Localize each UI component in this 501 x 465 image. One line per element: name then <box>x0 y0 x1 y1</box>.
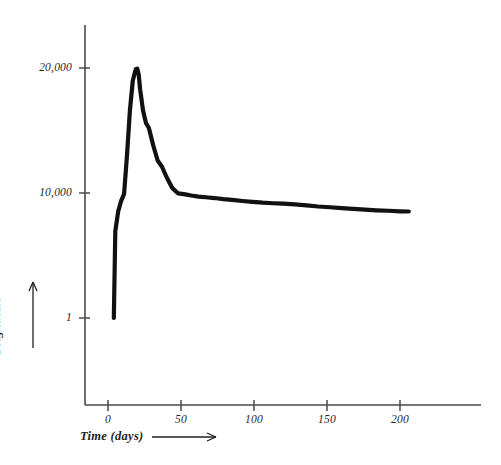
x-tick-label-200: 200 <box>370 413 430 425</box>
chart-canvas <box>0 0 501 465</box>
brightness-curve <box>114 69 409 318</box>
x-tick-label-0: 0 <box>78 413 138 425</box>
x-tick-label-100: 100 <box>224 413 284 425</box>
y-tick-label-10000: 10,000 <box>0 186 72 198</box>
y-axis-title: Brightness <box>0 296 4 355</box>
x-tick-label-150: 150 <box>297 413 357 425</box>
y-tick-label-1: 1 <box>0 311 72 323</box>
y-tick-label-20000: 20,000 <box>0 61 72 73</box>
x-axis-arrow <box>152 433 216 441</box>
x-axis-title: Time (days) <box>80 429 144 444</box>
x-tick-label-50: 50 <box>151 413 211 425</box>
light-curve-chart: 20,000 10,000 1 0 50 100 150 200 Time (d… <box>0 0 501 465</box>
